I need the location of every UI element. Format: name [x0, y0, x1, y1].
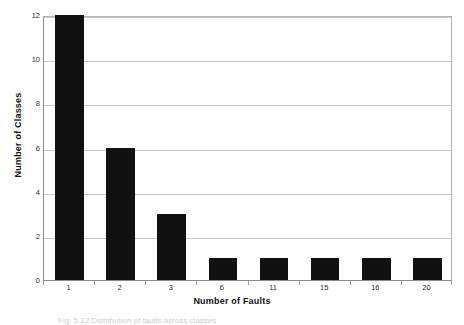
y-axis-tick-label: 6: [16, 145, 40, 153]
figure-caption: Fig. 5.12 Distribution of faults across …: [58, 316, 458, 325]
x-axis-tick-labels: 123611151620: [43, 284, 452, 296]
x-axis-tick-label: 20: [422, 284, 430, 292]
x-axis-tick-label: 11: [269, 284, 277, 292]
plot-area: [43, 16, 452, 281]
y-axis-tick-label: 10: [16, 56, 40, 64]
y-axis-tick-labels: 024681012: [16, 16, 40, 281]
bar[interactable]: [209, 258, 238, 280]
x-axis-tick-label: 1: [66, 284, 70, 292]
x-axis-title: Number of Faults: [0, 296, 464, 306]
bar-slot: [146, 17, 197, 280]
y-axis-tick-label: 4: [16, 189, 40, 197]
bar-slot: [351, 17, 402, 280]
bar[interactable]: [311, 258, 340, 280]
x-axis-tick-label: 2: [118, 284, 122, 292]
bar-slot: [197, 17, 248, 280]
bar-slot: [95, 17, 146, 280]
y-axis-tick-label: 8: [16, 101, 40, 109]
y-axis-tick-label: 12: [16, 12, 40, 20]
x-axis-tick-label: 3: [169, 284, 173, 292]
bar[interactable]: [106, 148, 135, 281]
bar[interactable]: [260, 258, 289, 280]
bar-slot: [44, 17, 95, 280]
bar[interactable]: [157, 214, 186, 280]
bar[interactable]: [362, 258, 391, 280]
y-axis-tick-label: 2: [16, 233, 40, 241]
x-axis-tick-label: 15: [320, 284, 328, 292]
y-axis-tick-label: 0: [16, 277, 40, 285]
bar-series: [44, 17, 451, 280]
x-axis-tick-label: 16: [371, 284, 379, 292]
bar-slot: [249, 17, 300, 280]
bar-slot: [300, 17, 351, 280]
chart-figure: Number of Classes 024681012 123611151620…: [0, 0, 464, 325]
bar-slot: [402, 17, 453, 280]
bar[interactable]: [55, 15, 84, 280]
bar[interactable]: [413, 258, 442, 280]
x-axis-tick-label: 6: [220, 284, 224, 292]
